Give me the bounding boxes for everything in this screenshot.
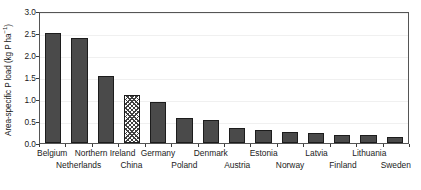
bar-chart-figure: Area-specific P load (kg P ha−1) 0.00.51… (0, 0, 421, 190)
y-axis-tick-label: 2.0 (14, 52, 36, 60)
bar-belgium[interactable] (45, 33, 61, 143)
bar-slot (66, 13, 92, 143)
bar-northern-ireland[interactable] (98, 76, 114, 143)
bar-slot (250, 13, 276, 143)
bar-slot (329, 13, 355, 143)
bar-finland[interactable] (334, 135, 350, 143)
x-axis-category-labels: BelgiumNetherlandsNorthern IrelandChinaG… (39, 147, 409, 189)
bars-container (40, 13, 408, 143)
bar-slot (224, 13, 250, 143)
x-axis-label-northern-ireland: Northern Ireland (75, 148, 136, 158)
bar-slot (145, 13, 171, 143)
x-axis-label-china: China (121, 160, 143, 170)
x-axis-label-netherlands: Netherlands (56, 160, 101, 170)
bar-lithuania[interactable] (360, 135, 376, 143)
x-axis-label-finland: Finland (329, 160, 356, 170)
bar-poland[interactable] (176, 118, 192, 143)
bar-netherlands[interactable] (71, 38, 87, 143)
y-axis-tick-label: 1.0 (14, 96, 36, 104)
x-axis-label-germany: Germany (141, 148, 175, 158)
y-axis-tick-label: 0.0 (14, 140, 36, 148)
bar-china[interactable] (124, 95, 140, 143)
bar-slot (303, 13, 329, 143)
bar-slot (40, 13, 66, 143)
bar-germany[interactable] (150, 102, 166, 143)
bar-latvia[interactable] (308, 133, 324, 143)
y-axis-tick-label: 2.5 (14, 30, 36, 38)
bar-slot (198, 13, 224, 143)
y-axis-tick-label: 0.5 (14, 118, 36, 126)
bar-slot (171, 13, 197, 143)
x-axis-label-austria: Austria (224, 160, 250, 170)
x-axis-label-norway: Norway (276, 160, 304, 170)
x-axis-label-latvia: Latvia (305, 148, 327, 158)
bar-denmark[interactable] (203, 120, 219, 143)
y-axis-tick-label: 3.0 (14, 8, 36, 16)
bar-slot (277, 13, 303, 143)
x-axis-tick-mark (409, 144, 410, 147)
y-axis-title-exponent: −1 (1, 27, 8, 34)
bar-austria[interactable] (229, 128, 245, 143)
plot-area (39, 12, 409, 144)
x-axis-label-sweden: Sweden (381, 160, 411, 170)
bar-norway[interactable] (282, 132, 298, 143)
x-axis-label-poland: Poland (171, 160, 197, 170)
bar-sweden[interactable] (387, 137, 403, 143)
y-axis-tick-labels: 0.00.51.01.52.02.53.0 (14, 12, 36, 144)
y-axis-title-main: Area-specific P load (kg P ha (4, 34, 13, 136)
bar-slot (119, 13, 145, 143)
x-axis-label-denmark: Denmark (194, 148, 228, 158)
y-axis-tick-label: 1.5 (14, 74, 36, 82)
y-axis-title-tail: ) (4, 24, 13, 27)
bar-slot (355, 13, 381, 143)
bar-slot (93, 13, 119, 143)
x-axis-label-belgium: Belgium (37, 148, 67, 158)
x-axis-label-estonia: Estonia (250, 148, 278, 158)
bar-slot (382, 13, 408, 143)
bar-estonia[interactable] (255, 130, 271, 143)
x-axis-label-lithuania: Lithuania (352, 148, 386, 158)
